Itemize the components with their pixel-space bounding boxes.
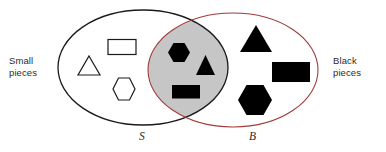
white-hexagon-icon <box>113 78 135 100</box>
black-rectangle-large-icon <box>272 62 310 82</box>
right-only-shapes <box>238 25 310 115</box>
venn-diagram: Small pieces Black pieces S B <box>0 0 386 152</box>
set-s-letter: S <box>139 130 145 142</box>
left-set-label: Small pieces <box>9 55 55 78</box>
white-triangle-icon <box>78 56 100 75</box>
black-rectangle-small-icon <box>172 85 200 99</box>
white-rectangle-icon <box>108 40 136 55</box>
left-only-shapes <box>78 40 136 101</box>
black-triangle-large-icon <box>240 25 272 52</box>
right-set-label: Black pieces <box>333 55 381 78</box>
venn-diagram-canvas <box>0 0 386 152</box>
set-b-letter: B <box>249 130 256 142</box>
black-hexagon-large-icon <box>238 85 272 115</box>
